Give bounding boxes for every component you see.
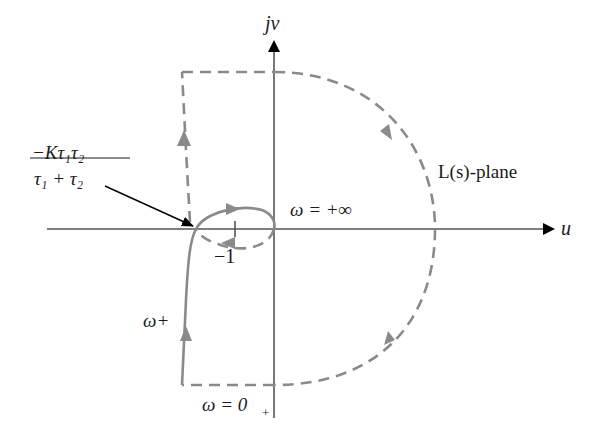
arrow-down-left-arc [384,331,395,345]
arrow-down-right-arc [380,124,392,140]
omega-inf-label: ω = +∞ [290,199,352,220]
arrow-right-loop [226,203,240,215]
arrow-up-solid [180,326,192,341]
u-axis-label: u [561,217,571,239]
intercept-pointer [105,186,193,226]
nyquist-diagram: jv u L(s)-plane −Kτ₁τ₂ τ₁ + τ₂ −1 ω = +∞… [0,0,596,429]
direction-arrows [177,124,395,345]
intercept-denominator: τ₁ + τ₂ [34,168,84,189]
omega-zero-subscript: + [262,405,269,420]
arrow-up-left-dashed [177,130,191,146]
minus-one-label: −1 [214,245,235,267]
jv-axis-label: jv [262,12,280,35]
intercept-numerator: −Kτ₁τ₂ [32,142,85,163]
axes [47,42,553,418]
solid-contour [182,208,275,385]
plane-label: L(s)-plane [438,161,517,183]
omega-zero-label: ω = 0 [202,394,248,415]
omega-plus-label: ω+ [143,310,169,331]
